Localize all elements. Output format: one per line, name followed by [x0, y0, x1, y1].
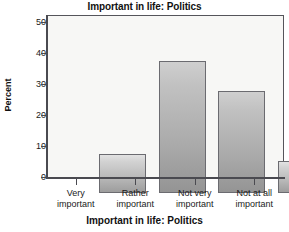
bar-chart-figure: Important in life: Politics Percent 0102… — [0, 0, 289, 232]
y-axis-title-text: Percent — [1, 58, 15, 132]
y-axis-line — [46, 15, 48, 179]
x-tick-mark — [76, 179, 77, 185]
x-tick-mark — [254, 179, 255, 185]
x-category-label: Ratherimportant — [106, 188, 166, 210]
x-category-label: Not at allimportant — [225, 188, 285, 210]
x-category-line-2: important — [46, 199, 106, 210]
y-tick-mark — [41, 84, 46, 85]
x-category-line-1: Not at all — [225, 188, 285, 199]
bar-2 — [159, 61, 206, 193]
x-category-label: Not veryimportant — [165, 188, 225, 210]
x-tick-mark — [135, 179, 136, 185]
bars-layer — [94, 32, 289, 193]
y-tick-mark — [41, 53, 46, 54]
y-tick-mark — [41, 146, 46, 147]
x-category-line-1: Not very — [165, 188, 225, 199]
y-tick-mark — [41, 115, 46, 116]
x-category-line-2: important — [225, 199, 285, 210]
y-axis-title: Percent — [1, 58, 15, 132]
x-axis-title: Important in life: Politics — [0, 215, 289, 226]
x-tick-mark — [195, 179, 196, 185]
x-category-label: Veryimportant — [46, 188, 106, 210]
plot-area — [46, 15, 284, 178]
x-category-line-2: important — [165, 199, 225, 210]
chart-title: Important in life: Politics — [0, 1, 289, 12]
x-axis-line — [46, 177, 285, 179]
x-category-line-1: Very — [46, 188, 106, 199]
x-category-line-1: Rather — [106, 188, 166, 199]
y-tick-mark — [41, 177, 46, 178]
y-tick-mark — [41, 22, 46, 23]
x-category-line-2: important — [106, 199, 166, 210]
